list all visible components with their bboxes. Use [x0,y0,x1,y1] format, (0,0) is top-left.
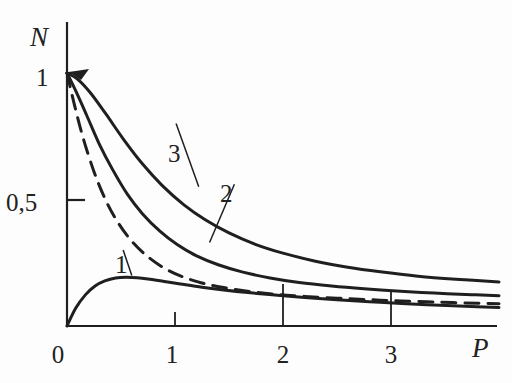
chart-text-layer: N P 1 0,5 0 1 2 3 1 2 3 [0,0,512,383]
curve-label-2: 2 [220,180,233,207]
x-tick-label-0: 0 [52,341,65,368]
y-tick-label-1: 1 [36,64,49,91]
curve-label-1: 1 [115,251,128,278]
x-tick-label-3: 3 [385,341,398,368]
x-tick-label-2: 2 [277,341,290,368]
y-axis-title: N [29,22,50,52]
x-axis-title: P [471,333,489,363]
curve-label-3: 3 [168,140,181,167]
x-tick-label-1: 1 [166,341,179,368]
figure-canvas: N P 1 0,5 0 1 2 3 1 2 3 [0,0,512,383]
y-tick-label-0.5: 0,5 [6,189,37,216]
